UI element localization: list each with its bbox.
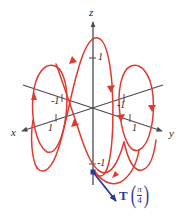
z-tick-label-negative-one: -1: [97, 158, 105, 168]
tangent-vector-symbol: T: [119, 189, 128, 202]
z-axis-label: z: [89, 7, 93, 18]
direction-arrow-2: [69, 56, 77, 64]
tangent-vector-arrow: [93, 172, 116, 201]
y-axis-label: y: [169, 128, 174, 139]
x-tick-label-negative-one: -1: [51, 96, 59, 106]
x-axis-label: x: [11, 127, 16, 138]
y-tick-label-negative-one: -1: [117, 100, 125, 110]
direction-arrow-1: [31, 92, 37, 100]
left-paren-glyph: (: [130, 185, 135, 205]
figure-canvas: [0, 0, 184, 220]
right-paren-glyph: ): [144, 185, 149, 205]
direction-arrow-6: [148, 105, 156, 112]
direction-arrow-3: [107, 85, 115, 93]
tangent-vector-argument: π 4: [137, 185, 142, 204]
argument-numerator: π: [137, 185, 142, 194]
direction-arrow-5: [112, 171, 119, 178]
space-curve-figure: x y z 1 -1 1 -1 1 -1 T ( π 4 ): [0, 0, 184, 220]
x-tick-label-one: 1: [48, 123, 53, 133]
y-tick-label-one: 1: [132, 123, 137, 133]
space-curve: [32, 38, 156, 184]
z-tick-label-one: 1: [98, 52, 103, 62]
tangent-vector-label: T ( π 4 ): [119, 185, 151, 205]
axes-group: [22, 22, 163, 185]
argument-denominator: 4: [137, 195, 142, 205]
